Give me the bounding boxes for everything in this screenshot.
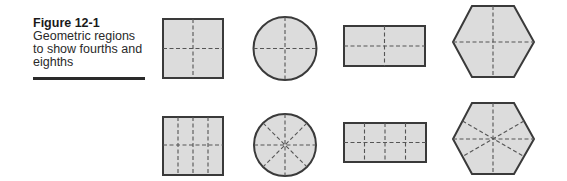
circle-fourths	[254, 17, 317, 80]
rectangle-fourths	[344, 26, 425, 66]
hexagon-eighths	[453, 103, 534, 174]
hexagon-fourths	[453, 6, 534, 77]
rectangle-eighths	[344, 123, 426, 162]
square-eighths	[163, 117, 223, 175]
circle-eighths	[254, 114, 316, 176]
square-fourths	[163, 19, 223, 78]
row-fourths	[163, 6, 534, 80]
row-eighths	[163, 103, 534, 176]
geometric-regions-figure	[0, 0, 567, 181]
